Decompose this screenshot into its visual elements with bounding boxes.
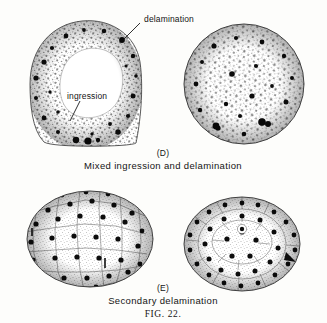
- drawing-d-left: [24, 14, 150, 154]
- annotation-delamination: delamination: [144, 14, 194, 24]
- figure-plate: delamination ingression (D) Mixed ingres…: [0, 0, 327, 323]
- panel-caption-e: Secondary delamination: [108, 295, 218, 306]
- drawing-e-right: [182, 194, 304, 296]
- figure-number: FIG. 22.: [145, 309, 182, 319]
- annotation-ingression: ingression: [67, 91, 107, 101]
- drawing-d-right: [180, 20, 310, 150]
- panel-letter-e: (E): [157, 283, 169, 293]
- drawing-e-left: [24, 188, 158, 292]
- panel-letter-d: (D): [157, 148, 170, 158]
- panel-caption-d: Mixed ingression and delamination: [84, 160, 242, 171]
- delamination-leader-line: [124, 23, 140, 39]
